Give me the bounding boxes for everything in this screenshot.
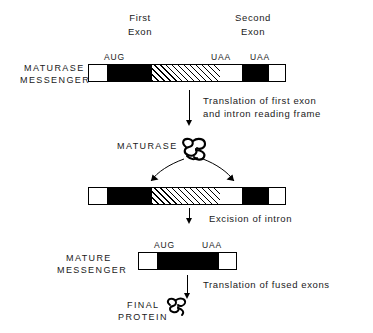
maturase-to-intron-left-arrow bbox=[151, 159, 184, 181]
maturase-protein-squiggle-icon bbox=[183, 139, 205, 160]
maturase-protein-label: MATURASE bbox=[117, 140, 178, 152]
maturase-messenger-label-line1: MATURASE bbox=[24, 62, 85, 74]
segment-leader bbox=[139, 253, 157, 269]
step1-text-line1: Translation of first exon bbox=[203, 95, 316, 107]
segment-trailer bbox=[269, 65, 285, 81]
second-exon-heading-line2: Exon bbox=[222, 26, 284, 38]
segment-intron bbox=[152, 188, 220, 204]
maturase-messenger-label-line2: MESSENGER bbox=[20, 74, 90, 86]
segment-leader bbox=[89, 188, 107, 204]
final-protein-squiggle-icon bbox=[168, 299, 185, 315]
step3-text-line1: Translation of fused exons bbox=[203, 279, 330, 291]
step1-arrow-shaft bbox=[189, 90, 190, 122]
segment-trailer bbox=[269, 188, 285, 204]
codon-label-aug-row1: AUG bbox=[104, 52, 125, 62]
final-protein-label-line2: PROTEIN bbox=[118, 311, 168, 323]
segment-second-exon bbox=[242, 65, 269, 81]
splicing-diagram: First Exon Second Exon AUG UAA UAA MATUR… bbox=[0, 0, 373, 333]
maturase-messenger-bar bbox=[88, 64, 286, 82]
segment-first-exon bbox=[107, 188, 152, 204]
segment-second-exon bbox=[242, 188, 269, 204]
step1-arrow-head bbox=[186, 120, 192, 126]
step3-arrow-shaft bbox=[187, 275, 188, 295]
step3-arrow-head bbox=[184, 293, 190, 299]
segment-trailer bbox=[219, 253, 236, 269]
codon-label-uaa-intron-row1: UAA bbox=[211, 52, 231, 62]
mature-messenger-bar bbox=[138, 252, 237, 270]
codon-label-uaa-row3: UAA bbox=[202, 240, 222, 250]
segment-spacer bbox=[220, 65, 242, 81]
codon-label-aug-row3: AUG bbox=[154, 240, 175, 250]
segment-leader bbox=[89, 65, 107, 81]
step1-text-line2: and intron reading frame bbox=[203, 108, 321, 120]
segment-first-exon bbox=[107, 65, 152, 81]
first-exon-heading-line1: First bbox=[110, 12, 170, 24]
segment-fused-exon bbox=[157, 253, 219, 269]
second-exon-heading-line1: Second bbox=[222, 12, 284, 24]
step2-arrow-head bbox=[186, 218, 192, 224]
precursor-messenger-bar bbox=[88, 187, 286, 205]
first-exon-heading-line2: Exon bbox=[110, 26, 170, 38]
mature-messenger-label-line1: MATURE bbox=[66, 252, 112, 264]
segment-intron bbox=[152, 65, 220, 81]
maturase-to-intron-right-arrow bbox=[203, 159, 234, 181]
segment-spacer bbox=[220, 188, 242, 204]
codon-label-uaa-exon2-row1: UAA bbox=[250, 52, 270, 62]
step2-text-line1: Excision of intron bbox=[209, 213, 292, 225]
mature-messenger-label-line2: MESSENGER bbox=[57, 264, 127, 276]
final-protein-label-line1: FINAL bbox=[127, 299, 160, 311]
